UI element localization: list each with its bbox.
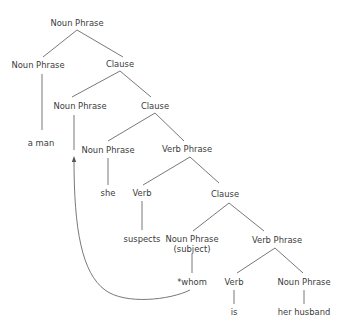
node-her-husband: her husband — [278, 307, 331, 317]
node-np-head: Noun Phrase — [11, 60, 64, 70]
node-np-root: Noun Phrase — [50, 18, 103, 28]
node-verb-2: Verb — [225, 277, 244, 287]
np-subject-label: Noun Phrase — [165, 234, 218, 244]
node-np-gap: Noun Phrase — [53, 101, 106, 111]
branch-line — [155, 113, 184, 141]
node-suspects: suspects — [124, 234, 161, 244]
node-whom: *whom — [177, 277, 207, 287]
movement-arrow — [74, 160, 190, 299]
branch-line — [237, 248, 275, 273]
np-subject-sublabel: (subject) — [165, 244, 218, 254]
branch-line — [143, 157, 190, 185]
branch-line — [43, 30, 77, 57]
node-is: is — [231, 307, 238, 317]
node-clause-3: Clause — [211, 189, 239, 199]
branch-line — [193, 203, 229, 231]
node-verb-1: Verb — [133, 188, 152, 198]
node-she: she — [101, 188, 116, 198]
branch-lines — [42, 30, 304, 304]
node-np-she: Noun Phrase — [81, 145, 134, 155]
node-clause-1: Clause — [106, 59, 134, 69]
node-vp-2: Verb Phrase — [252, 235, 302, 245]
branch-line — [108, 113, 155, 141]
branch-line — [77, 30, 123, 57]
branch-line — [72, 71, 120, 97]
branch-line — [120, 71, 151, 97]
syntax-tree-diagram: Noun Phrase Noun Phrase Clause Noun Phra… — [0, 0, 348, 332]
node-vp-1: Verb Phrase — [162, 144, 212, 154]
node-np-husband: Noun Phrase — [277, 277, 330, 287]
arrowhead-icon — [72, 156, 76, 162]
branch-line — [275, 248, 303, 273]
node-a-man: a man — [28, 138, 54, 148]
branch-line — [229, 203, 264, 231]
branch-line — [190, 157, 219, 183]
node-np-subject: Noun Phrase (subject) — [165, 234, 218, 254]
node-clause-2: Clause — [141, 101, 169, 111]
